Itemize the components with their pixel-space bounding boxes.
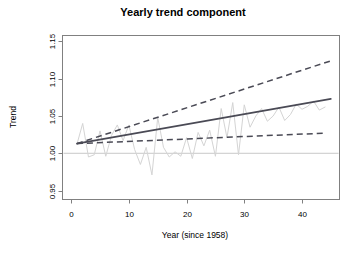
yearly-trend-chart: Yearly trend component 0.951.001.051.101…: [0, 0, 353, 258]
chart-container: Yearly trend component 0.951.001.051.101…: [0, 0, 353, 258]
y-axis-title: Trend: [8, 106, 18, 128]
y-tick-label: 1.05: [48, 108, 57, 124]
x-tick-label: 40: [298, 210, 307, 219]
x-tick-label: 10: [125, 210, 134, 219]
x-axis-title: Year (since 1958): [162, 230, 228, 240]
x-tick-label: 20: [183, 210, 192, 219]
x-tick-label: 30: [240, 210, 249, 219]
y-tick-label: 0.95: [48, 183, 57, 199]
chart-title: Yearly trend component: [120, 6, 246, 18]
y-tick-label: 1.10: [48, 71, 57, 87]
y-tick-label: 1.15: [48, 33, 57, 49]
x-tick-label: 0: [69, 210, 74, 219]
y-tick-label: 1.00: [48, 145, 57, 161]
